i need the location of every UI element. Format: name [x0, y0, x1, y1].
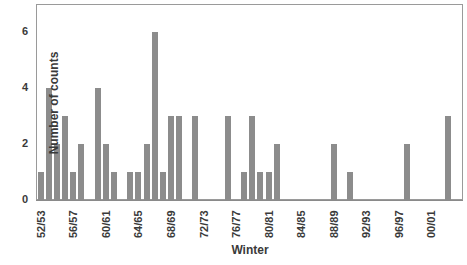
x-tick-label: 68/69: [165, 210, 177, 238]
bar-79/80: [257, 172, 263, 200]
bar-97/98: [404, 144, 410, 200]
x-tick-label: 52/53: [35, 210, 47, 238]
bar-61/62: [111, 172, 117, 200]
bar-88/89: [331, 144, 337, 200]
bar-68/69: [168, 116, 174, 200]
bar-80/81: [266, 172, 272, 200]
bar-69/70: [176, 116, 182, 200]
x-tick-label: 92/93: [360, 210, 372, 238]
bar-71/72: [192, 116, 198, 200]
bar-56/57: [70, 172, 76, 200]
x-tick-label: 96/97: [393, 210, 405, 238]
bar-75/76: [225, 116, 231, 200]
bar-77/78: [241, 172, 247, 200]
bar-66/67: [152, 32, 158, 200]
bar-78/79: [249, 116, 255, 200]
x-tick-label: 56/57: [67, 210, 79, 238]
bar-64/65: [135, 172, 141, 200]
y-tick-label: 0: [14, 193, 28, 205]
x-tick-label: 84/85: [295, 210, 307, 238]
x-tick-label: 64/65: [132, 210, 144, 238]
bar-55/56: [62, 116, 68, 200]
y-tick-label: 6: [14, 25, 28, 37]
bar-81/82: [274, 144, 280, 200]
bar-02/03: [445, 116, 451, 200]
bar-57/58: [78, 144, 84, 200]
x-tick-label: 00/01: [425, 210, 437, 238]
bar-90/91: [347, 172, 353, 200]
x-axis: [36, 200, 463, 201]
bar-63/64: [127, 172, 133, 200]
x-tick-label: 88/89: [328, 210, 340, 238]
bar-59/60: [95, 88, 101, 200]
bar-65/66: [144, 144, 150, 200]
bar-67/68: [160, 172, 166, 200]
x-tick-label: 80/81: [263, 210, 275, 238]
x-axis-label: Winter: [231, 243, 268, 257]
bar-chart: 0246 52/5356/5760/6164/6568/6972/7376/77…: [0, 0, 467, 265]
x-tick-label: 60/61: [100, 210, 112, 238]
y-tick-label: 2: [14, 137, 28, 149]
y-axis-label: Number of counts: [47, 52, 61, 155]
y-tick-label: 4: [14, 81, 28, 93]
x-tick-label: 72/73: [198, 210, 210, 238]
x-tick-label: 76/77: [230, 210, 242, 238]
bar-52/53: [38, 172, 44, 200]
bar-60/61: [103, 144, 109, 200]
